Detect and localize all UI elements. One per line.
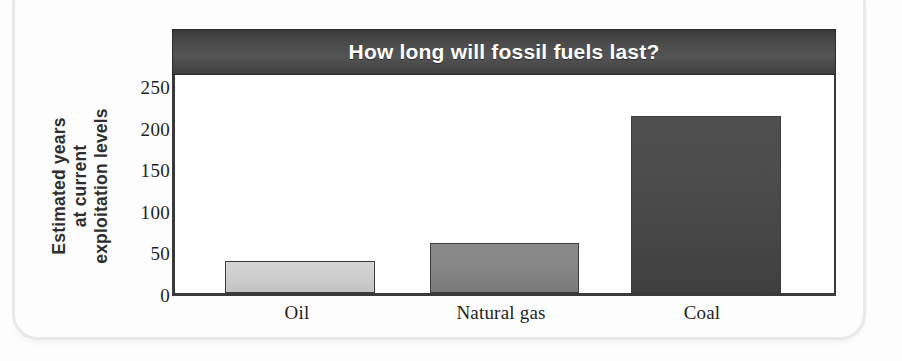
- y-axis-tick-labels: 0 50 100 150 200 250: [118, 0, 170, 361]
- y-axis-title: Estimated years at current exploitation …: [28, 72, 132, 300]
- y-axis-title-line-3: exploitation levels: [91, 108, 112, 264]
- plot-area: [172, 75, 836, 296]
- y-tick-label-200: 200: [141, 119, 170, 141]
- y-axis-title-line-2: at current: [70, 108, 91, 264]
- bar-chart-figure: Estimated years at current exploitation …: [0, 0, 902, 361]
- chart-title: How long will fossil fuels last?: [349, 40, 660, 64]
- y-tick-label-150: 150: [141, 160, 170, 182]
- y-tick-label-250: 250: [141, 77, 170, 99]
- y-tick-label-50: 50: [150, 243, 170, 265]
- bar-coal: [631, 116, 781, 293]
- y-tick-label-0: 0: [160, 285, 170, 307]
- scanned-figure-page: Estimated years at current exploitation …: [0, 0, 902, 361]
- y-tick-label-100: 100: [141, 202, 170, 224]
- bar-natural-gas: [430, 243, 579, 293]
- bar-oil: [225, 261, 375, 293]
- x-label-oil: Oil: [285, 302, 310, 324]
- x-label-natural-gas: Natural gas: [456, 302, 545, 324]
- chart-title-banner: How long will fossil fuels last?: [172, 29, 836, 75]
- x-label-coal: Coal: [684, 302, 721, 324]
- bars-layer: [175, 75, 834, 293]
- x-axis-category-labels: Oil Natural gas Coal: [172, 302, 836, 332]
- y-axis-title-line-1: Estimated years: [49, 108, 70, 264]
